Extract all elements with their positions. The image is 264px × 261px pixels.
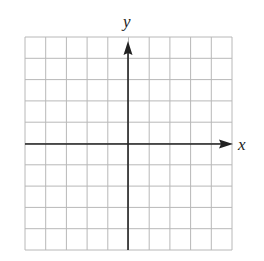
y-axis-label: y xyxy=(121,12,131,31)
coordinate-plane: x y xyxy=(0,0,264,261)
x-axis-label: x xyxy=(237,135,246,154)
x-axis-arrow-icon xyxy=(219,140,233,149)
y-axis-arrow-icon xyxy=(124,41,133,55)
